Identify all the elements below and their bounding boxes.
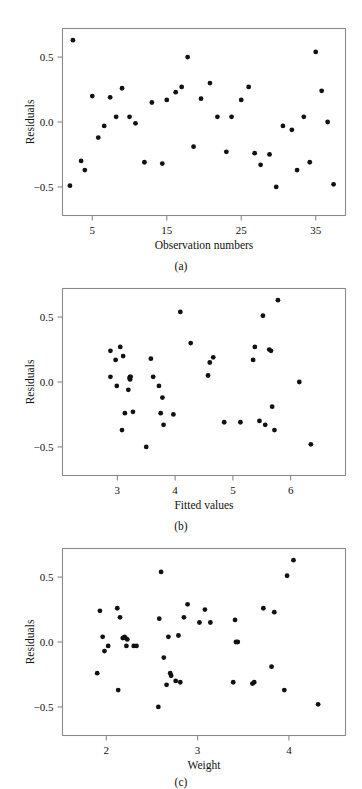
x-tick-label: 4 xyxy=(286,744,292,756)
data-point xyxy=(128,374,133,379)
data-point xyxy=(239,98,244,103)
data-point xyxy=(122,411,127,416)
y-axis-title-a: Residuals xyxy=(24,99,36,144)
data-point xyxy=(295,168,300,173)
y-tick-label: 0.5 xyxy=(40,311,54,323)
y-tick-label: −0.5 xyxy=(34,181,54,193)
x-tick-label: 3 xyxy=(115,484,121,496)
data-point xyxy=(191,144,196,149)
data-point xyxy=(68,183,73,188)
y-axis-title-b: Residuals xyxy=(24,359,36,404)
x-axis-title-a: Observation numbers xyxy=(155,239,254,251)
data-point xyxy=(272,428,277,433)
data-point xyxy=(308,442,313,447)
y-tick-label: 0.0 xyxy=(40,116,54,128)
x-ticks-c: 234 xyxy=(104,736,293,756)
x-tick-label: 2 xyxy=(104,744,110,756)
data-point xyxy=(116,688,121,693)
data-point xyxy=(161,655,166,660)
data-point xyxy=(90,94,95,99)
data-point xyxy=(148,356,153,361)
x-tick-label: 4 xyxy=(172,484,178,496)
data-point xyxy=(120,428,125,433)
data-point xyxy=(156,705,161,710)
data-point xyxy=(178,309,183,314)
plot-frame-a xyxy=(63,29,346,216)
data-point xyxy=(274,185,279,190)
data-point xyxy=(313,49,318,54)
data-point xyxy=(182,615,187,620)
data-point xyxy=(176,633,181,638)
data-point xyxy=(289,127,294,132)
data-point xyxy=(157,616,162,621)
data-point xyxy=(252,680,257,685)
residual-panel-c: (b) −0.50.00.5 234 Residuals Weight (c) xyxy=(0,520,362,780)
x-axis-title-c: Weight xyxy=(188,759,222,772)
data-point xyxy=(171,412,176,417)
data-point xyxy=(166,634,171,639)
data-point xyxy=(270,404,275,409)
y-tick-label: 0.5 xyxy=(40,571,54,583)
data-point xyxy=(215,114,220,119)
x-tick-label: 5 xyxy=(230,484,236,496)
data-point xyxy=(185,55,190,60)
data-point xyxy=(108,348,113,353)
data-point xyxy=(207,360,212,365)
data-point xyxy=(282,688,287,693)
data-point xyxy=(276,298,281,303)
residual-panel-b: (a) −0.50.00.5 3456 Residuals Fitted val… xyxy=(0,260,362,520)
data-point xyxy=(126,387,131,392)
data-point xyxy=(114,384,119,389)
data-point xyxy=(159,569,164,574)
data-point xyxy=(224,149,229,154)
data-point xyxy=(297,380,302,385)
data-point xyxy=(169,673,174,678)
data-point xyxy=(133,121,138,126)
data-point xyxy=(151,374,156,379)
data-point xyxy=(188,341,193,346)
x-tick-label: 35 xyxy=(310,224,322,236)
scatter-plot-c: (b) −0.50.00.5 234 Residuals Weight (c) xyxy=(0,520,362,789)
data-point xyxy=(113,358,118,363)
data-point xyxy=(164,98,169,103)
data-point xyxy=(131,409,136,414)
y-ticks-c: −0.50.00.5 xyxy=(34,571,63,713)
data-point xyxy=(269,348,274,353)
data-point xyxy=(121,354,126,359)
data-point xyxy=(252,151,257,156)
data-point xyxy=(301,114,306,119)
panel-caption-c: (c) xyxy=(175,776,188,789)
data-point xyxy=(199,96,204,101)
x-tick-label: 25 xyxy=(236,224,248,236)
data-point xyxy=(233,618,238,623)
panel-caption-a: (a) xyxy=(175,260,188,273)
data-points-a xyxy=(68,38,336,190)
data-point xyxy=(160,161,165,166)
data-point xyxy=(267,152,272,157)
data-point xyxy=(118,615,123,620)
data-point xyxy=(178,680,183,685)
data-point xyxy=(96,135,101,140)
x-tick-label: 6 xyxy=(288,484,294,496)
data-point xyxy=(235,640,240,645)
y-tick-label: 0.0 xyxy=(40,376,54,388)
data-point xyxy=(258,162,263,167)
data-point xyxy=(179,85,184,90)
data-point xyxy=(291,558,296,563)
data-point xyxy=(263,422,268,427)
data-point xyxy=(185,602,190,607)
data-point xyxy=(82,168,87,173)
data-point xyxy=(120,86,125,91)
data-point xyxy=(127,114,132,119)
data-point xyxy=(285,573,290,578)
data-point xyxy=(246,85,251,90)
data-points-c xyxy=(95,558,321,710)
data-point xyxy=(319,88,324,93)
x-tick-label: 5 xyxy=(90,224,96,236)
y-ticks-b: −0.50.00.5 xyxy=(34,311,63,453)
y-tick-label: 0.5 xyxy=(40,51,54,63)
data-point xyxy=(134,644,139,649)
data-point xyxy=(160,395,165,400)
residual-panel-a: −0.50.00.5 5152535 Residuals Observation… xyxy=(0,0,362,260)
data-point xyxy=(222,420,227,425)
